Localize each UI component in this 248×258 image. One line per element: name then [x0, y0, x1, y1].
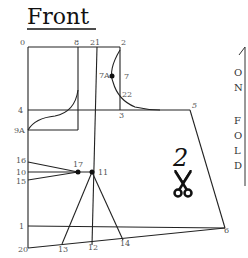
svg-text:O: O — [234, 67, 242, 78]
label-10: 10 — [16, 168, 26, 177]
svg-text:N: N — [234, 82, 243, 93]
label-21: 21 — [90, 38, 100, 47]
label-3: 3 — [119, 111, 124, 120]
label-13: 13 — [58, 245, 68, 254]
label-1: 1 — [19, 222, 24, 231]
label-2: 2 — [121, 38, 126, 47]
label-0: 0 — [20, 38, 25, 47]
line-16-17 — [28, 162, 78, 172]
label-8: 8 — [74, 38, 79, 47]
label-15: 15 — [16, 177, 26, 186]
line-21-12 — [92, 47, 97, 245]
line-11-14 — [92, 172, 123, 240]
line-15-17 — [28, 172, 78, 180]
point-7a-dot — [110, 74, 115, 79]
line-11-13 — [62, 172, 92, 244]
label-17: 17 — [73, 160, 83, 169]
label-22: 22 — [122, 90, 132, 99]
title: Front — [27, 4, 89, 29]
scissors-icon — [174, 170, 192, 197]
label-7a: 7A — [99, 71, 110, 80]
line-1-6 — [28, 226, 225, 228]
piece-number: 2 — [172, 144, 188, 172]
arrow-up-icon — [239, 47, 245, 55]
point-11-dot — [90, 170, 95, 175]
label-20: 20 — [18, 245, 28, 254]
svg-text:D: D — [234, 160, 242, 171]
label-12: 12 — [88, 243, 98, 252]
label-5: 5 — [192, 101, 197, 110]
label-6: 6 — [224, 226, 229, 235]
pattern-diagram: Front 0 8 21 2 7A 7 22 3 4 5 9A 16 10 15… — [0, 0, 248, 258]
label-14: 14 — [120, 239, 130, 248]
neckline-curve — [112, 50, 160, 110]
label-9a: 9A — [14, 126, 25, 135]
point-17-dot — [76, 170, 81, 175]
label-7: 7 — [124, 72, 129, 81]
label-4: 4 — [18, 106, 23, 115]
label-16: 16 — [16, 156, 26, 165]
svg-text:L: L — [234, 145, 241, 156]
svg-text:F: F — [234, 115, 241, 126]
label-11: 11 — [98, 168, 108, 177]
svg-text:O: O — [234, 130, 242, 141]
line-5-6 — [190, 110, 225, 228]
fold-label: O N F O L D — [234, 67, 243, 171]
